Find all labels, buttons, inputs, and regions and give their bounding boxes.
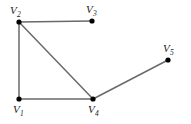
graph-figure: V1V2V3V4V5 — [0, 0, 191, 124]
graph-node-v2 — [16, 19, 21, 24]
vertex-label-base: V — [10, 4, 17, 16]
vertex-label-v2: V2 — [10, 5, 20, 16]
graph-node-v1 — [16, 96, 21, 101]
graph-node-v5 — [165, 57, 170, 62]
vertex-label-v5: V5 — [163, 43, 173, 54]
edge-v4-v5 — [93, 60, 168, 99]
node-layer — [16, 18, 170, 101]
vertex-label-subscript: 4 — [95, 109, 99, 118]
edge-v2-v4 — [19, 22, 93, 99]
edge-v2-v3 — [19, 21, 92, 22]
vertex-label-v4: V4 — [88, 104, 98, 115]
vertex-label-base: V — [13, 103, 20, 115]
vertex-label-v3: V3 — [86, 4, 96, 15]
vertex-label-v1: V1 — [13, 104, 23, 115]
vertex-label-base: V — [163, 42, 170, 54]
graph-node-v4 — [90, 96, 95, 101]
vertex-label-subscript: 1 — [20, 109, 24, 118]
vertex-label-subscript: 5 — [170, 48, 174, 57]
vertex-label-subscript: 3 — [93, 9, 97, 18]
vertex-label-base: V — [88, 103, 95, 115]
vertex-label-subscript: 2 — [17, 10, 21, 19]
vertex-label-base: V — [86, 3, 93, 15]
graph-node-v3 — [89, 18, 94, 23]
edge-layer — [19, 21, 168, 99]
